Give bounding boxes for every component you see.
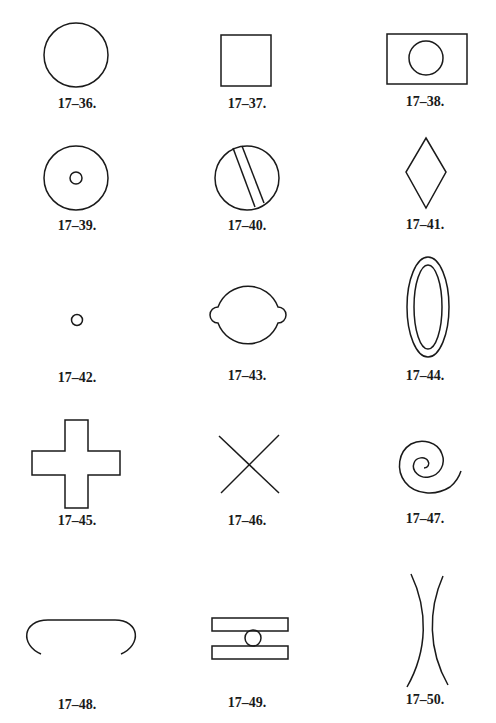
figure-17-44-double-ellipse-icon: [407, 257, 449, 357]
figure-label: 17–47.: [406, 511, 445, 527]
figure-17-50-facing-arcs-icon: [407, 574, 448, 687]
figure-label: 17–48.: [58, 697, 97, 713]
figure-label: 17–41.: [406, 217, 445, 233]
figure-label: 17–45.: [58, 513, 97, 529]
figure-label: 17–44.: [406, 368, 445, 384]
figure-label: 17–50.: [406, 692, 445, 708]
figure-label: 17–43.: [228, 368, 267, 384]
figure-17-39-circle-dot-icon: [44, 146, 108, 210]
figure-17-47-spiral-icon: [399, 441, 461, 493]
figure-17-36-circle-icon: [44, 23, 108, 87]
figure-17-49-bars-circle-icon: [212, 618, 288, 659]
figure-label: 17–49.: [228, 695, 267, 711]
figure-17-43-lobed-circle-icon: [210, 286, 286, 344]
figure-label: 17–42.: [58, 370, 97, 386]
figure-17-37-square-icon: [221, 35, 271, 86]
figure-label: 17–36.: [58, 96, 97, 112]
figure-label: 17–40.: [228, 218, 267, 234]
figure-17-42-small-circle-icon: [72, 315, 83, 326]
figure-17-40-circle-band-icon: [215, 146, 279, 210]
figure-17-38-rectangle-circle-icon: [387, 34, 467, 84]
figure-label: 17–38.: [406, 94, 445, 110]
figure-17-41-diamond-icon: [406, 138, 446, 208]
figure-label: 17–37.: [228, 96, 267, 112]
figure-label: 17–39.: [58, 218, 97, 234]
figure-17-45-cross-icon: [32, 420, 120, 508]
figure-17-48-open-arch-icon: [27, 620, 136, 654]
figure-17-46-x-lines-icon: [219, 435, 279, 493]
figure-label: 17–46.: [228, 513, 267, 529]
